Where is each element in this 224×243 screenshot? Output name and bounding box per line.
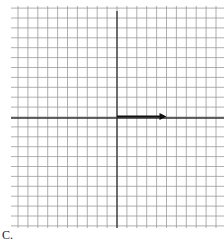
figure-label: C. xyxy=(2,228,13,243)
arrowhead-icon xyxy=(160,113,167,120)
coordinate-grid xyxy=(0,0,224,243)
